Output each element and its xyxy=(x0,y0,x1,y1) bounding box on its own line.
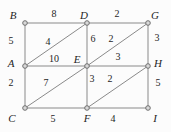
vertex-dot-E xyxy=(85,64,90,69)
vertex-label-G: G xyxy=(151,9,159,21)
vertex-dot-I xyxy=(146,106,151,111)
edge-C-E xyxy=(25,66,87,108)
vertex-label-C: C xyxy=(8,112,16,124)
edge-weight-C-F: 5 xyxy=(51,113,56,124)
vertex-label-F: F xyxy=(83,112,91,124)
vertex-dot-F xyxy=(85,106,90,111)
vertex-label-I: I xyxy=(152,112,158,124)
graph-canvas: 82523510363544272BDGAEHCFI xyxy=(0,0,171,132)
edge-weight-A-C: 2 xyxy=(9,77,14,88)
vertex-label-D: D xyxy=(79,9,88,21)
edge-weight-E-H: 3 xyxy=(116,51,121,62)
vertex-dot-D xyxy=(85,21,90,26)
edge-weight-E-G: 2 xyxy=(109,33,114,44)
vertex-dot-C xyxy=(23,106,28,111)
edge-weight-B-A: 5 xyxy=(9,35,14,46)
edge-weight-A-D: 4 xyxy=(46,36,51,47)
edge-weight-A-E: 10 xyxy=(49,53,59,64)
vertex-label-H: H xyxy=(153,57,163,69)
vertex-dot-G xyxy=(146,21,151,26)
edge-weight-H-I: 5 xyxy=(156,77,161,88)
edge-weight-F-I: 4 xyxy=(111,113,116,124)
edge-weight-F-H: 2 xyxy=(108,73,113,84)
edge-F-H xyxy=(87,66,148,108)
edge-weight-D-E: 6 xyxy=(91,33,96,44)
edge-weight-C-E: 7 xyxy=(44,77,49,88)
vertex-label-E: E xyxy=(73,53,81,65)
graph-diagram: 82523510363544272BDGAEHCFI xyxy=(0,0,171,132)
vertex-dot-H xyxy=(146,64,151,69)
vertex-dot-B xyxy=(23,21,28,26)
vertex-label-A: A xyxy=(7,57,15,69)
edge-weight-G-H: 3 xyxy=(155,32,160,43)
edge-weight-E-F: 3 xyxy=(90,73,95,84)
vertex-label-B: B xyxy=(10,9,17,21)
edge-weight-B-D: 8 xyxy=(52,8,57,19)
vertex-dot-A xyxy=(23,64,28,69)
edge-weight-D-G: 2 xyxy=(115,8,120,19)
